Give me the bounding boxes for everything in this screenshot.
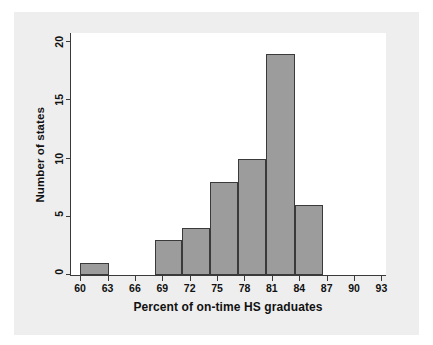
x-axis-tick <box>272 275 273 281</box>
histogram-bar <box>210 182 238 275</box>
y-axis-title-text: Number of states <box>34 107 46 203</box>
x-axis-tick-label-text: 84 <box>293 283 305 294</box>
figure-canvas: Number of states 05101520 60636669727578… <box>0 0 433 345</box>
y-axis-title: Number of states <box>32 33 48 276</box>
y-axis-tick <box>66 99 71 100</box>
histogram-bar <box>155 240 182 275</box>
x-axis-tick <box>135 275 136 281</box>
x-axis-tick <box>162 275 163 281</box>
x-axis-tick <box>244 275 245 281</box>
y-axis-tick-label-text: 5 <box>54 211 65 217</box>
x-axis-tick-label-text: 66 <box>129 283 141 294</box>
plot-region: 05101520 606366697275788184879093 <box>70 33 386 276</box>
y-axis-tick <box>66 41 71 42</box>
x-axis-tick-label-text: 81 <box>266 283 278 294</box>
histogram-bar <box>182 228 209 275</box>
histogram-bar <box>238 159 266 275</box>
x-axis-tick <box>327 275 328 281</box>
x-axis-tick <box>299 275 300 281</box>
y-axis-tick <box>66 216 71 217</box>
x-axis-tick-label-text: 69 <box>156 283 168 294</box>
x-axis-tick <box>217 275 218 281</box>
histogram-bar <box>80 263 109 275</box>
x-axis-tick <box>354 275 355 281</box>
y-axis-tick-label-text: 20 <box>54 36 65 48</box>
x-axis-tick-label-text: 60 <box>74 283 86 294</box>
y-axis-tick <box>66 274 71 275</box>
x-axis-tick-label-text: 72 <box>184 283 196 294</box>
x-axis-tick-label-text: 90 <box>348 283 360 294</box>
x-axis-tick-label-text: 63 <box>102 283 114 294</box>
y-axis-tick-label-text: 0 <box>54 269 65 275</box>
x-axis-tick-label-text: 78 <box>239 283 251 294</box>
histogram-bar <box>266 54 294 275</box>
x-axis-tick <box>381 275 382 281</box>
x-axis-tick <box>108 275 109 281</box>
x-axis-tick-label-text: 75 <box>211 283 223 294</box>
x-axis-tick-label-text: 87 <box>321 283 333 294</box>
y-axis-tick-label-text: 15 <box>54 94 65 106</box>
y-axis-tick-label-text: 10 <box>54 153 65 165</box>
x-axis-title: Percent of on-time HS graduates <box>70 300 386 314</box>
histogram-bar <box>295 205 323 275</box>
x-axis-tick <box>190 275 191 281</box>
x-axis-tick-label-text: 93 <box>376 283 388 294</box>
bars-layer <box>71 33 386 275</box>
x-axis-tick <box>80 275 81 281</box>
y-axis-tick <box>66 158 71 159</box>
